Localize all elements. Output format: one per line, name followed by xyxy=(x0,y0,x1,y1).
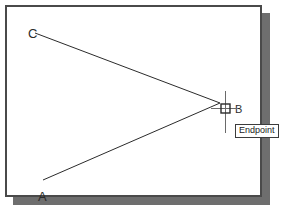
vertex-label-c: C xyxy=(28,27,37,40)
drawing-frame: C A B Endpoint xyxy=(5,5,262,197)
endpoint-osnap-tooltip: Endpoint xyxy=(235,124,279,138)
vertex-label-b: B xyxy=(235,104,242,115)
cad-viewport-screenshot: C A B Endpoint xyxy=(0,0,282,214)
line-segment-cb[interactable] xyxy=(35,33,220,103)
vertex-label-a: A xyxy=(38,190,47,203)
drawing-canvas[interactable] xyxy=(7,7,260,195)
line-segment-ab[interactable] xyxy=(43,103,220,180)
